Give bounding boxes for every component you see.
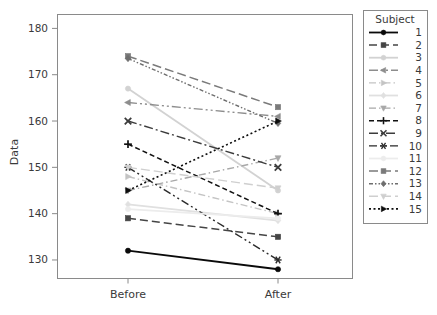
repeated-measures-line-chart: Data 130140150160170180 BeforeAfter Subj… [0, 0, 437, 315]
series-line-subject-7 [125, 156, 281, 194]
legend-item-label: 2 [415, 39, 422, 51]
legend-item-label: 3 [415, 51, 422, 63]
legend-item-label: 4 [415, 64, 422, 76]
data-point-marker-circle [381, 30, 386, 35]
y-tick-label: 150 [28, 161, 48, 173]
data-point-marker-square [275, 105, 280, 110]
data-point-marker-circle [125, 86, 130, 91]
data-point-marker-plus [124, 140, 132, 148]
legend-item-label: 6 [415, 89, 422, 101]
series-line-subject-12 [125, 54, 280, 110]
legend-item-label: 11 [409, 152, 422, 164]
series-line-subject-1 [125, 248, 280, 272]
series-line-subject-13 [125, 55, 280, 126]
legend-title: Subject [375, 13, 414, 25]
data-point-marker-circle [275, 216, 280, 221]
y-tick-label: 170 [28, 68, 48, 80]
data-point-marker-circle [125, 248, 130, 253]
y-tick-label: 140 [28, 207, 48, 219]
legend-item-label: 15 [409, 203, 422, 215]
series-line-subject-3 [125, 86, 280, 193]
y-tick-label: 180 [28, 22, 48, 34]
chart-root: Data 130140150160170180 BeforeAfter Subj… [0, 0, 437, 315]
series-layer [124, 54, 282, 272]
x-tick-label: Before [110, 288, 146, 301]
x-axis-ticks: BeforeAfter [110, 279, 292, 301]
data-point-marker-square [381, 43, 386, 48]
legend-item-label: 14 [409, 190, 423, 202]
y-axis-ticks: 130140150160170180 [28, 22, 58, 266]
data-point-marker-triangle-left [125, 100, 131, 106]
x-tick-label: After [265, 288, 292, 301]
y-axis-title: Data [8, 139, 21, 165]
data-point-marker-square [381, 169, 386, 174]
legend-item-label: 13 [409, 177, 422, 189]
series-line-subject-15 [126, 118, 282, 193]
data-point-marker-circle [125, 206, 130, 211]
legend-item-label: 1 [415, 26, 422, 38]
y-tick-label: 160 [28, 115, 48, 127]
data-point-marker-circle [381, 156, 386, 161]
y-tick-label: 130 [28, 253, 48, 265]
plot-frame [58, 15, 353, 279]
legend-item-label: 7 [415, 102, 422, 114]
data-point-marker-square [125, 216, 130, 221]
legend-item-label: 12 [409, 165, 422, 177]
data-point-marker-circle [381, 55, 386, 60]
legend-item-label: 8 [415, 114, 422, 126]
series-line-subject-6 [125, 201, 280, 224]
data-point-marker-circle [275, 267, 280, 272]
legend-item-label: 10 [409, 140, 422, 152]
legend-item-label: 9 [415, 127, 422, 139]
data-point-marker-triangle-right [126, 174, 132, 180]
data-point-marker-square [275, 234, 280, 239]
legend-item-label: 5 [415, 77, 422, 89]
